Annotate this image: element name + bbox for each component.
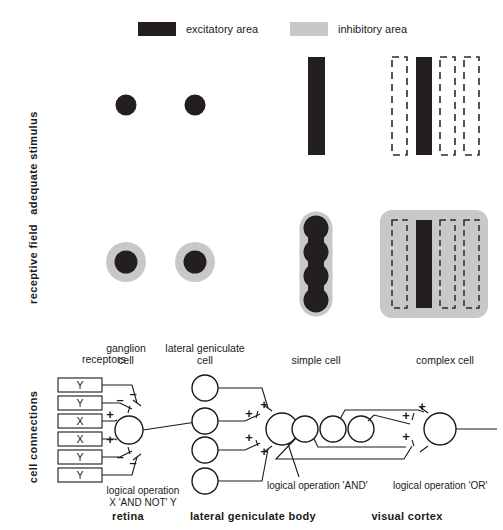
stimulus-bar-solid	[416, 57, 432, 155]
ganglion-sign-3: +	[106, 432, 114, 447]
simple-cell-op-leader	[288, 444, 299, 477]
row-label-adequate-stimulus: adequate stimulus	[27, 111, 39, 214]
ganglion-sign-1: –	[129, 386, 136, 401]
receptive-field-simple-cell	[300, 212, 333, 317]
complex-cell-sign-0: +	[418, 399, 426, 414]
legend-label-inhibitory: inhibitory area	[338, 23, 408, 35]
row-label-cell-connections: cell connections	[27, 391, 39, 484]
stimulus-bar-simple-cell	[308, 57, 325, 155]
stimulus-bar-dashed-3	[464, 57, 479, 155]
lateral-geniculate-cells	[192, 375, 218, 494]
region-label-visual-cortex: visual cortex	[371, 510, 443, 522]
column-header-ganglion-cell-line2: cell	[118, 354, 134, 366]
cortical-simple-cells	[292, 416, 374, 442]
complex-cell-signs: + + +	[402, 399, 426, 444]
lgn-cell-1	[192, 408, 218, 434]
operation-label-complex-cell: logical operation 'OR'	[393, 480, 488, 491]
stimulus-spot-lateral-geniculate	[185, 95, 206, 116]
simple-cell-signs: + + + +	[245, 397, 268, 459]
simple-cell-sign-1: +	[245, 406, 253, 421]
row-labels: adequate stimulus receptive field cell c…	[27, 111, 39, 483]
stimulus-bars-complex-cell	[392, 57, 479, 155]
complex-cell-node	[424, 413, 456, 445]
receptive-field-complex-cell	[380, 210, 488, 318]
operation-label-simple-cell: logical operation 'AND'	[267, 480, 368, 491]
legend-swatch-inhibitory	[290, 22, 328, 36]
lgn-cell-2	[192, 437, 218, 463]
legend-label-excitatory: excitatory area	[186, 23, 259, 35]
legend-swatch-excitatory	[138, 22, 176, 36]
column-headers: receptors ganglion cell lateral genicula…	[82, 342, 474, 366]
ganglion-cell-node	[115, 416, 143, 444]
neural-pathway-figure: excitatory area inhibitory area adequate…	[0, 0, 503, 530]
operation-label-ganglion-line2: X 'AND NOT' Y	[109, 497, 177, 508]
stimulus-bar-dashed-2	[440, 57, 455, 155]
stimulus-bar-dashed-1	[392, 57, 407, 155]
region-label-lateral-geniculate-body: lateral geniculate body	[190, 510, 317, 522]
column-header-complex-cell: complex cell	[416, 354, 474, 366]
row-cell-connections: Y Y X X Y Y	[58, 375, 497, 508]
cortical-cell-2	[348, 416, 374, 442]
region-labels: retina lateral geniculate body visual co…	[112, 510, 443, 522]
figure-root: excitatory area inhibitory area adequate…	[0, 0, 503, 530]
complex-cell-sign-2: +	[402, 429, 410, 444]
ganglion-sign-4: –	[116, 449, 123, 464]
row-label-receptive-field: receptive field	[27, 224, 39, 304]
legend: excitatory area inhibitory area	[138, 22, 408, 36]
receptor-label-1: Y	[76, 397, 83, 409]
column-header-simple-cell: simple cell	[291, 354, 340, 366]
receptor-label-4: Y	[76, 451, 83, 463]
rf-bar-solid	[416, 220, 432, 308]
column-header-ganglion-cell-line1: ganglion	[106, 342, 146, 354]
column-header-lgn-cell-line2: cell	[197, 354, 213, 366]
row-adequate-stimulus	[116, 57, 480, 155]
region-label-retina: retina	[112, 510, 144, 522]
column-header-lgn-cell-line1: lateral geniculate	[165, 342, 245, 354]
ganglion-sign-2: +	[106, 407, 114, 422]
simple-cell-sign-2: +	[245, 430, 253, 445]
receptor-label-2: X	[76, 415, 83, 427]
lgn-cell-0	[192, 375, 218, 401]
complex-cell-sign-1: +	[402, 408, 410, 423]
receptor-label-5: Y	[76, 469, 83, 481]
receptor-label-0: Y	[76, 379, 83, 391]
simple-cell-sign-3: +	[260, 444, 268, 459]
receptor-label-3: X	[76, 433, 83, 445]
operation-label-ganglion-line1: logical operation	[107, 485, 180, 496]
ganglion-sign-5: –	[129, 455, 136, 470]
row-receptive-field	[106, 210, 488, 318]
ganglion-sign-0: –	[116, 392, 123, 407]
lgn-cell-3	[192, 468, 218, 494]
cortical-cell-1	[320, 416, 346, 442]
receptive-field-lateral-geniculate	[175, 242, 215, 282]
receptor-boxes: Y Y X X Y Y	[58, 378, 102, 482]
receptive-field-ganglion	[106, 242, 146, 282]
stimulus-spot-ganglion	[116, 95, 137, 116]
simple-cell-sign-0: +	[260, 397, 268, 412]
